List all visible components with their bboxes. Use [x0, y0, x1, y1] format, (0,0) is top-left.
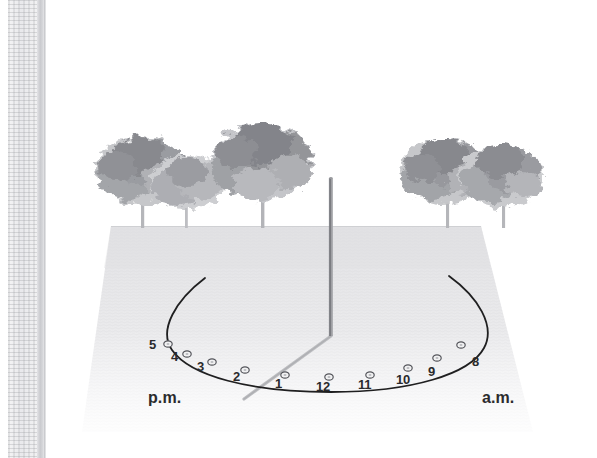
pm-label: p.m. — [148, 390, 181, 406]
hour-marker-dot — [404, 365, 412, 371]
hour-marker-dot — [241, 367, 249, 373]
tree-right-2 — [459, 144, 543, 228]
hour-marker-dot — [183, 351, 191, 357]
hour-label-1: 1 — [275, 377, 282, 390]
hour-marker-dot — [457, 342, 465, 348]
hour-marker-dot — [433, 355, 441, 361]
sundial-illustration: 5432112111098 p.m. a.m. — [0, 0, 597, 458]
hour-label-4: 4 — [171, 350, 178, 363]
hour-marker-dot — [281, 372, 289, 378]
hour-marker-dot — [208, 359, 216, 365]
am-label: a.m. — [482, 390, 514, 406]
hour-label-8: 8 — [472, 355, 479, 368]
hour-label-10: 10 — [396, 373, 410, 386]
hour-label-3: 3 — [197, 360, 204, 373]
tree-left-3 — [211, 123, 313, 228]
tree-line — [95, 123, 543, 228]
hour-label-9: 9 — [428, 365, 435, 378]
hour-label-5: 5 — [149, 338, 156, 351]
hour-label-11: 11 — [358, 378, 371, 391]
hour-label-2: 2 — [233, 370, 240, 383]
hour-marker-dot — [164, 341, 172, 347]
hour-label-12: 12 — [316, 380, 330, 393]
scanned-page: 5432112111098 p.m. a.m. — [0, 0, 597, 458]
gnomon-rod — [329, 177, 333, 336]
